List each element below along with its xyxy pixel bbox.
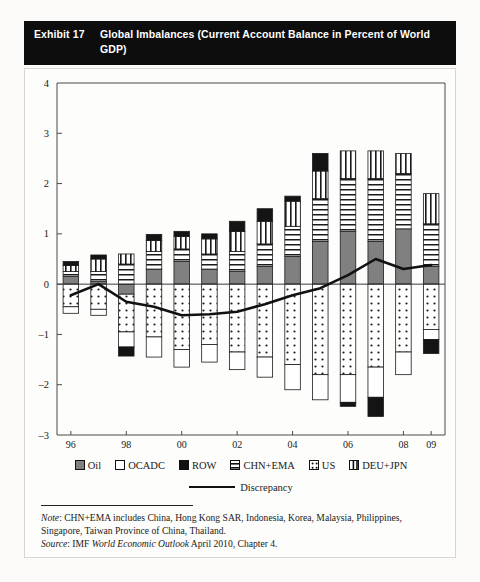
legend-label-discrepancy: Discrepancy [240,482,292,493]
source-line: Source: IMF World Economic Outlook April… [41,537,441,550]
x-axis-tick-label: 08 [398,439,408,449]
y-axis-tick-label: –1 [38,329,50,340]
chart-plot-area: –3–2–1012349698000204060809 [25,69,457,449]
y-axis-tick-label: –3 [38,430,50,441]
x-axis-tick-label: 02 [232,439,242,449]
chart-legend: OilOCADCROWCHN+EMAUSDEU+JPN Discrepancy [25,455,457,501]
page-title: Global Imbalances (Current Account Balan… [100,27,430,57]
exhibit-page: Exhibit 17Global Imbalances (Current Acc… [0,0,480,582]
source-text: : IMF [67,538,92,549]
legend-item-oil: Oil [75,460,101,471]
legend-label-ocadc: OCADC [128,460,165,471]
x-axis-tick-label: 06 [343,439,353,449]
legend-row-line: Discrepancy [25,477,457,495]
source-italic: World Economic Outlook [92,538,189,549]
legend-swatch-row [179,460,189,470]
y-axis-tick-label: 4 [44,78,50,89]
legend-label-deu-jpn: DEU+JPN [362,460,407,471]
stacked-bar-chart: –3–2–1012349698000204060809 [25,69,457,449]
legend-swatch-oil [75,460,85,470]
x-axis-tick-label: 04 [288,439,298,449]
legend-swatch-ocadc [115,460,125,470]
notes-divider [41,505,193,506]
legend-item-chn-ema: CHN+EMA [230,460,294,471]
legend-swatch-discrepancy-line [189,486,235,488]
x-axis-tick-label: 96 [66,439,76,449]
legend-swatch-deu-jpn [349,460,359,470]
bar-group [63,151,439,417]
figure-notes: Note: CHN+EMA includes China, Hong Kong … [41,505,441,550]
exhibit-title-bar: Exhibit 17Global Imbalances (Current Acc… [24,21,456,65]
legend-label-row: ROW [192,460,217,471]
legend-item-discrepancy: Discrepancy [189,482,292,493]
note-line: Note: CHN+EMA includes China, Hong Kong … [41,511,441,537]
legend-row-categories: OilOCADCROWCHN+EMAUSDEU+JPN [25,455,457,473]
y-axis-tick-label: 1 [44,228,49,239]
legend-swatch-us [309,460,319,470]
note-label: Note [41,512,59,523]
legend-item-us: US [309,460,335,471]
exhibit-number: Exhibit 17 [34,27,100,42]
y-axis-tick-label: –2 [38,379,50,390]
x-axis-tick-label: 09 [426,439,436,449]
source-tail: April 2010, Chapter 4. [189,538,277,549]
y-axis-tick-label: 2 [44,178,49,189]
note-text: : CHN+EMA includes China, Hong Kong SAR,… [41,512,402,536]
y-axis-tick-label: 3 [44,128,49,139]
legend-label-chn-ema: CHN+EMA [243,460,294,471]
x-axis-tick-label: 00 [177,439,187,449]
legend-item-row: ROW [179,460,217,471]
source-label: Source [41,538,67,549]
legend-swatch-chn-ema [230,460,240,470]
legend-item-deu-jpn: DEU+JPN [349,460,407,471]
figure-frame: –3–2–1012349698000204060809 OilOCADCROWC… [24,68,456,558]
y-axis-tick-label: 0 [44,279,49,290]
legend-item-ocadc: OCADC [115,460,165,471]
legend-label-us: US [322,460,335,471]
x-axis-tick-label: 98 [121,439,131,449]
legend-label-oil: Oil [88,460,101,471]
